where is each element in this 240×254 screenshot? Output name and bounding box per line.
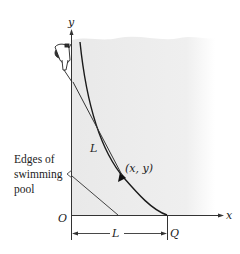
callout-line-2: swimming [14,168,63,181]
callout-line-1: Edges of [14,153,55,166]
dimension-arrow-right [161,232,167,236]
y-axis-label: y [67,16,75,29]
swimmer-icon [55,44,72,82]
point-q-label: Q [170,227,179,240]
y-axis-arrow [70,29,74,35]
pool-region [72,37,215,215]
dimension-arrow-left [72,232,78,236]
tractrix-diagram: y x O L (x, y) Edges of swimming pool Q … [0,0,240,254]
x-axis-arrow [218,214,224,218]
x-axis-label: x [226,209,233,222]
dimension-label: L [111,227,119,240]
rope-length-label: L [89,142,97,155]
point-label: (x, y) [125,162,153,175]
callout-line-3: pool [14,183,34,196]
origin-label: O [58,212,67,225]
